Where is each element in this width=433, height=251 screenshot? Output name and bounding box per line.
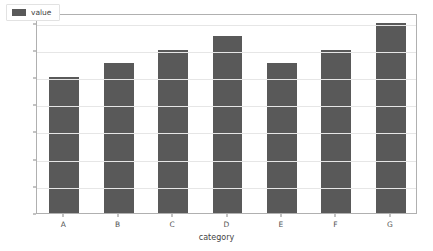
gridline [37,25,416,26]
gridline [37,133,416,134]
y-axis-tick-mark [33,105,36,106]
x-axis-tick-mark [280,214,281,217]
gridline [37,52,416,53]
gridline [37,188,416,189]
legend-swatch-value [12,9,26,16]
x-axis-tick-label: F [333,220,337,229]
gridline [37,79,416,80]
bar-d [213,36,243,213]
x-axis-tick-label: B [115,220,120,229]
bar-b [104,63,134,213]
y-axis-tick-mark [33,159,36,160]
bar-chart-figure: 02468101214 ABCDEFG category value [0,0,433,251]
x-axis-tick-mark [335,214,336,217]
x-axis-tick-mark [117,214,118,217]
x-axis-tick-label: A [61,220,66,229]
x-axis-tick-mark [63,214,64,217]
legend: value [6,4,60,21]
x-axis-tick-mark [389,214,390,217]
gridline [37,106,416,107]
bar-e [267,63,297,213]
x-axis-label: category [0,233,433,242]
x-axis-tick-mark [172,214,173,217]
legend-label-value: value [31,8,52,17]
y-axis-tick-mark [33,50,36,51]
x-axis-tick-label: G [387,220,393,229]
bar-a [49,77,79,213]
bars-group [37,15,416,213]
plot-area [36,14,417,214]
y-axis-tick-mark [33,23,36,24]
gridline [37,161,416,162]
y-axis-tick-mark [33,214,36,215]
x-axis-tick-mark [226,214,227,217]
x-axis-tick-label: E [279,220,284,229]
y-axis-tick-mark [33,77,36,78]
x-axis-tick-label: C [169,220,174,229]
y-axis-tick-mark [33,132,36,133]
x-axis-tick-label: D [224,220,230,229]
y-axis-tick-mark [33,186,36,187]
